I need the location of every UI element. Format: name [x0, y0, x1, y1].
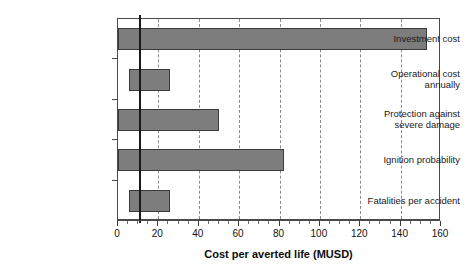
y-axis-category-label-line: Fatalities per accident	[352, 194, 460, 205]
y-axis-category-label: Operational costannually	[352, 68, 464, 90]
y-axis-category-label-line: Ignition probability	[352, 154, 460, 165]
y-axis-category-label-line: Protection against	[352, 108, 460, 119]
x-axis-minor-tick	[208, 221, 209, 224]
x-axis-minor-tick	[228, 221, 229, 224]
x-axis-major-tick	[319, 221, 320, 226]
y-axis-category-label-line: Operational cost	[352, 68, 460, 79]
x-axis-minor-tick	[147, 221, 148, 224]
y-axis-category-label-line: annually	[352, 79, 460, 90]
reference-line	[139, 15, 141, 223]
x-axis-minor-tick	[248, 221, 249, 224]
y-axis-tick	[112, 139, 117, 140]
y-axis-tick	[112, 99, 117, 100]
x-axis-minor-tick	[218, 221, 219, 224]
x-axis-minor-tick	[430, 221, 431, 224]
y-axis-category-label: Ignition probability	[352, 154, 464, 165]
x-axis-tick-label: 60	[233, 228, 244, 239]
x-axis-major-tick	[440, 221, 441, 226]
y-axis-tick	[112, 58, 117, 59]
y-axis-category-label: Protection againstsevere damage	[352, 108, 464, 130]
y-axis-category-label-line: severe damage	[352, 119, 460, 130]
x-axis-minor-tick	[339, 221, 340, 224]
bar	[118, 149, 284, 171]
x-axis-tick-label: 140	[391, 228, 408, 239]
x-axis-minor-tick	[329, 221, 330, 224]
x-axis-major-tick	[117, 221, 118, 226]
x-axis-minor-tick	[299, 221, 300, 224]
x-axis-minor-tick	[289, 221, 290, 224]
x-axis-minor-tick	[258, 221, 259, 224]
x-axis-minor-tick	[137, 221, 138, 224]
x-axis-major-tick	[198, 221, 199, 226]
x-axis-tick-label: 100	[311, 228, 328, 239]
x-axis-major-tick	[359, 221, 360, 226]
x-axis-tick-label: 20	[152, 228, 163, 239]
x-axis-minor-tick	[410, 221, 411, 224]
x-axis-minor-tick	[188, 221, 189, 224]
x-axis-major-tick	[279, 221, 280, 226]
x-axis-tick-label: 80	[273, 228, 284, 239]
x-axis-minor-tick	[127, 221, 128, 224]
y-axis-category-label: Investment cost	[352, 33, 464, 44]
bar	[129, 190, 170, 212]
x-axis-tick-label: 160	[432, 228, 449, 239]
x-axis-tick-label: 40	[192, 228, 203, 239]
x-axis-minor-tick	[178, 221, 179, 224]
y-axis-tick	[112, 180, 117, 181]
x-axis-minor-tick	[390, 221, 391, 224]
y-axis-category-label: Fatalities per accident	[352, 194, 464, 205]
x-axis-major-tick	[238, 221, 239, 226]
x-axis-minor-tick	[379, 221, 380, 224]
x-axis-major-tick	[400, 221, 401, 226]
bar	[118, 109, 219, 131]
bar	[129, 69, 170, 91]
x-axis-minor-tick	[369, 221, 370, 224]
x-axis-minor-tick	[309, 221, 310, 224]
chart-screenshot: Investment costOperational costannuallyP…	[0, 0, 464, 274]
y-axis-category-label-line: Investment cost	[352, 33, 460, 44]
x-axis-tick-label: 0	[114, 228, 120, 239]
x-axis-title: Cost per averted life (MUSD)	[117, 248, 440, 260]
x-axis-major-tick	[157, 221, 158, 226]
x-axis-minor-tick	[420, 221, 421, 224]
x-axis-minor-tick	[167, 221, 168, 224]
x-axis-minor-tick	[268, 221, 269, 224]
x-axis-tick-label: 120	[351, 228, 368, 239]
x-axis-minor-tick	[349, 221, 350, 224]
